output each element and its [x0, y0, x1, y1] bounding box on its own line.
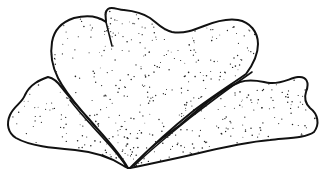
stippled-thallus-illustration	[0, 0, 325, 174]
